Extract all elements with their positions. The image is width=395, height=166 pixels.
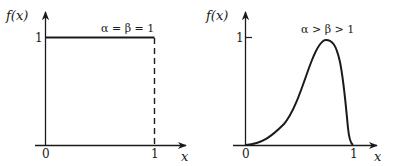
figure: f(x) 1 0 1 x α = β = 1 f(x) 1 0 1 x α > …: [0, 0, 395, 166]
right-y-tick-1: 1: [236, 31, 244, 45]
right-annotation: α > β > 1: [301, 23, 354, 36]
right-x-axis-label: x: [374, 149, 382, 164]
left-annotation: α = β = 1: [101, 22, 154, 35]
right-y-axis-label: f(x): [205, 8, 228, 23]
left-y-tick-1: 1: [35, 31, 43, 45]
left-x-tick-1: 1: [151, 147, 159, 161]
right-chart: f(x) 1 0 1 x α > β > 1: [205, 8, 382, 164]
left-y-axis-label: f(x): [5, 8, 28, 23]
left-chart: f(x) 1 0 1 x α = β = 1: [5, 8, 189, 164]
right-x-tick-1: 1: [350, 147, 358, 161]
left-x-tick-0: 0: [42, 147, 50, 161]
right-density-curve: [246, 40, 353, 145]
left-x-axis-label: x: [181, 149, 189, 164]
right-x-tick-0: 0: [242, 147, 250, 161]
